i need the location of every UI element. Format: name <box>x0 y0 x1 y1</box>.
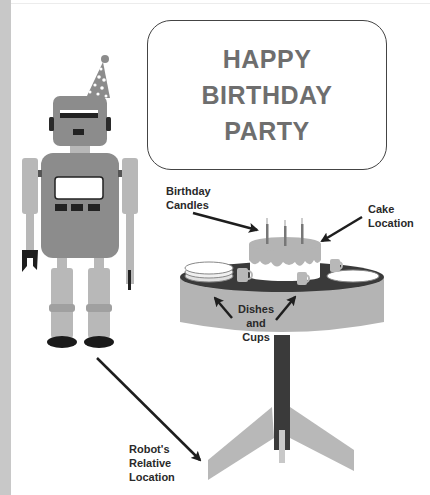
label-robot-relative-location: Robot's Relative Location <box>129 442 175 484</box>
banner-line-1: HAPPY <box>223 41 312 77</box>
label-cake-location: Cake Location <box>368 202 414 230</box>
table-icon <box>180 262 384 480</box>
banner-line-2: BIRTHDAY <box>202 77 333 113</box>
banner-line-3: PARTY <box>224 113 309 149</box>
arrow-to-candles <box>193 213 257 230</box>
cake-icon <box>249 218 321 281</box>
birthday-banner: HAPPY BIRTHDAY PARTY <box>147 20 387 170</box>
arrow-to-cake <box>322 217 362 241</box>
label-dishes-and-cups: Dishes and Cups <box>236 302 276 344</box>
annotation-arrows <box>97 213 362 460</box>
robot-icon <box>22 55 138 348</box>
party-hat-icon <box>86 55 110 98</box>
label-birthday-candles: Birthday Candles <box>166 184 211 212</box>
